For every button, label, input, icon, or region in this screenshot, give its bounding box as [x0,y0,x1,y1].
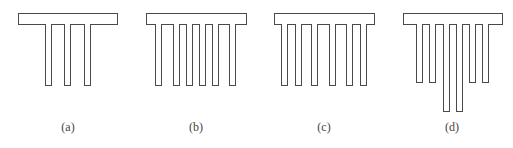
panel-label: (c) [304,120,344,135]
pile [281,24,288,86]
pile [429,24,436,83]
panel-label: (d) [432,120,472,135]
pile [229,24,236,86]
pile [199,24,206,86]
pile [64,24,71,86]
pile [416,24,423,83]
pile [173,24,180,86]
pile [482,24,489,83]
pile [346,24,353,86]
pile [155,24,162,86]
pile [329,24,336,86]
pile [212,24,219,86]
pile [360,24,367,86]
pile [295,24,302,86]
pile [45,24,52,86]
pile [311,24,318,86]
pile [469,24,476,83]
pile [84,24,91,86]
pile [443,24,450,112]
panel-label: (a) [48,120,88,135]
panel-label: (b) [176,120,216,135]
pile [456,24,463,112]
pile [186,24,193,86]
